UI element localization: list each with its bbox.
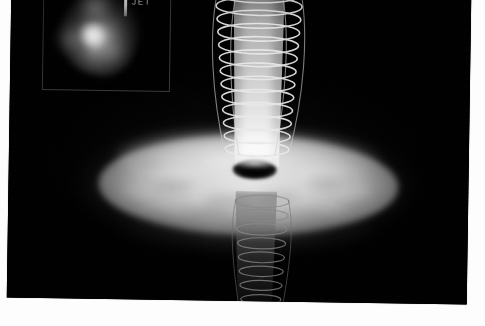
jet-annotation-label: JET xyxy=(132,0,151,7)
image-title: Black hole accretion disk with bipolar h… xyxy=(0,0,1,1)
accretion-disk-highlight-patch xyxy=(330,184,370,199)
radio-source-core xyxy=(77,22,107,48)
accretion-disk-mottle xyxy=(158,180,192,192)
accretion-disk-mottle xyxy=(292,210,332,222)
relativistic-jet-upper-core xyxy=(240,0,275,165)
accretion-disk-mottle xyxy=(184,208,230,221)
accretion-disk-highlight-patch xyxy=(120,185,156,199)
astronomy-photo-plate: JET xyxy=(7,0,471,304)
agn-scene: JET xyxy=(7,0,471,304)
accretion-disk-mottle xyxy=(137,159,163,168)
accretion-disk-highlight-patch xyxy=(148,166,196,183)
jet-marker-bar xyxy=(124,0,127,16)
photo-page-background: JET Black hole accretion disk with bipol… xyxy=(0,0,485,326)
accretion-disk-highlight-patch xyxy=(295,164,347,182)
accretion-disk-mottle xyxy=(338,200,366,210)
radio-observation-inset[interactable]: JET xyxy=(42,0,172,92)
accretion-disk-mottle xyxy=(308,178,338,188)
counter-jet-lower xyxy=(229,191,283,304)
